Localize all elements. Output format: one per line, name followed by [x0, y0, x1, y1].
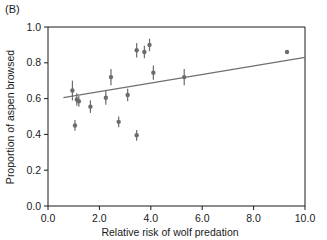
x-tick-label: 0.0 [41, 212, 56, 224]
y-tick-label: 0.0 [26, 200, 41, 212]
data-points [70, 39, 289, 141]
y-tick-label: 0.8 [26, 56, 41, 68]
x-tick-label: 6.0 [195, 212, 210, 224]
axis-tick-labels: 0.00.20.40.60.81.00.02.04.06.08.010.0 [26, 21, 315, 224]
x-tick-label: 2.0 [92, 212, 107, 224]
x-tick-label: 8.0 [246, 212, 261, 224]
data-point [104, 91, 108, 105]
y-tick-label: 0.6 [26, 92, 41, 104]
x-tick-label: 10.0 [295, 212, 316, 224]
data-point [125, 89, 129, 102]
data-point [134, 43, 138, 57]
axis-frame [48, 27, 305, 206]
y-tick-label: 1.0 [26, 21, 41, 33]
x-tick-label: 4.0 [143, 212, 158, 224]
data-point [109, 69, 113, 85]
y-axis-title: Proportion of aspen browsed [4, 50, 16, 184]
x-axis-title: Relative risk of wolf predation [101, 226, 238, 238]
data-point [134, 130, 138, 141]
data-point [285, 50, 289, 54]
figure-panel: (B) 0.00.20.40.60.81.00.02.04.06.08.010.… [0, 0, 327, 240]
data-point [142, 46, 146, 59]
axis-ticks [44, 27, 305, 210]
y-tick-label: 0.2 [26, 164, 41, 176]
data-point [73, 120, 77, 131]
data-point [88, 100, 92, 113]
data-point [182, 69, 186, 85]
data-point [151, 65, 155, 79]
scatter-plot: 0.00.20.40.60.81.00.02.04.06.08.010.0 Re… [0, 0, 327, 240]
y-tick-label: 0.4 [26, 128, 41, 140]
data-point [147, 39, 151, 52]
data-point [116, 117, 120, 128]
data-point [70, 81, 74, 101]
